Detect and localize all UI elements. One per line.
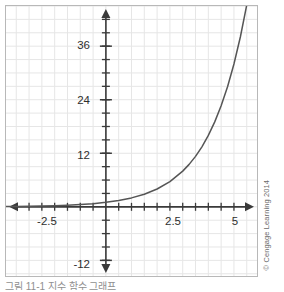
x-tick-label-neg2point5: -2.5 (27, 216, 67, 228)
x-tick-label-5: 5 (222, 216, 248, 228)
plot-svg (6, 6, 257, 276)
copyright-credit: © Cengage Learning 2014 (262, 180, 271, 270)
y-tick-label-24: 24 (64, 95, 90, 107)
y-tick-label-36: 36 (64, 40, 90, 52)
gridlines (6, 6, 257, 276)
figure-caption: 그림 11-1 지수 함수 그래프 (5, 281, 185, 290)
exponential-graph-figure: 36 24 12 -12 -2.5 2.5 5 © Cengage Learni… (0, 0, 284, 292)
y-tick-label-neg12: -12 (64, 259, 90, 271)
y-tick-label-12: 12 (64, 150, 90, 162)
x-tick-label-2point5: 2.5 (155, 216, 191, 228)
plot-area (5, 5, 258, 277)
